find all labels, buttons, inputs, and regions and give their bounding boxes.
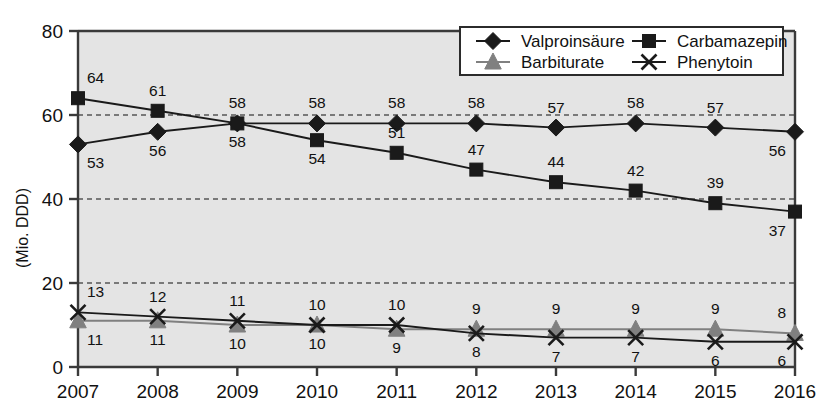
x-tick-label-2007: 2007 [57,381,99,402]
data-point-marker [231,117,244,130]
data-point-label: 7 [552,348,561,365]
data-point-marker [151,104,164,117]
data-point-label: 8 [472,343,481,360]
line-chart-svg: 020406080 200720082009201020112012201320… [0,0,829,410]
data-point-label: 39 [707,174,724,191]
x-tick-label-2015: 2015 [694,381,736,402]
x-tick-label-2008: 2008 [137,381,179,402]
x-tick-label-2012: 2012 [455,381,497,402]
data-point-marker [550,176,563,189]
legend-label: Barbiturate [521,53,604,72]
data-point-label: 37 [769,222,786,239]
data-point-marker [709,197,722,210]
data-point-label: 58 [308,94,325,111]
y-axis-title: (Mio. DDD) [14,188,31,268]
chart-figure: 020406080 200720082009201020112012201320… [0,0,829,410]
data-point-marker [72,92,85,105]
data-point-label: 9 [631,300,640,317]
y-tick-label-20: 20 [42,273,63,294]
data-point-label: 11 [229,292,245,309]
data-point-label: 58 [229,94,246,111]
data-point-label: 47 [468,141,485,158]
data-point-label: 42 [627,162,644,179]
chart-legend: ValproinsäureCarbamazepinBarbituratePhen… [460,27,788,75]
data-point-label: 10 [229,335,247,352]
data-point-label: 58 [388,94,405,111]
x-tick-label-2009: 2009 [216,381,258,402]
data-point-label: 6 [777,352,786,369]
data-point-label: 9 [711,300,720,317]
legend-marker-square-icon [643,35,656,48]
y-tick-label-0: 0 [52,357,63,378]
x-tick-label-2014: 2014 [615,381,658,402]
data-point-label: 54 [308,150,326,167]
data-point-label: 11 [150,331,166,348]
data-point-label: 10 [308,335,326,352]
data-point-label: 53 [87,154,104,171]
data-point-label: 57 [707,99,724,116]
x-tick-label-2016: 2016 [774,381,816,402]
data-point-label: 58 [229,133,246,150]
data-point-label: 56 [149,142,166,159]
data-point-label: 11 [87,331,103,348]
data-point-label: 58 [468,94,485,111]
x-tick-label-2010: 2010 [296,381,338,402]
data-point-label: 44 [547,153,565,170]
data-point-marker [629,184,642,197]
legend-label: Carbamazepin [677,32,788,51]
data-point-marker [311,134,324,147]
data-point-label: 8 [777,304,786,321]
data-point-label: 9 [472,300,481,317]
data-point-label: 9 [552,300,561,317]
data-point-label: 61 [149,82,166,99]
data-point-marker [390,146,403,159]
data-point-label: 51 [388,124,405,141]
y-tick-label-80: 80 [42,21,63,42]
data-point-label: 13 [87,283,104,300]
data-point-label: 58 [627,94,644,111]
data-point-label: 9 [392,339,401,356]
x-tick-label-2013: 2013 [535,381,577,402]
data-point-label: 57 [547,99,564,116]
data-point-label: 12 [149,288,166,305]
data-point-label: 10 [308,296,326,313]
data-point-label: 56 [769,142,786,159]
data-point-marker [470,163,483,176]
y-tick-label-60: 60 [42,105,63,126]
data-point-label: 6 [711,352,720,369]
data-point-label: 10 [388,296,406,313]
legend-label: Phenytoin [677,53,753,72]
x-tick-label-2011: 2011 [376,381,417,402]
data-point-label: 7 [631,348,640,365]
data-point-label: 64 [87,69,105,86]
legend-label: Valproinsäure [521,32,625,51]
y-tick-label-40: 40 [42,189,63,210]
data-point-marker [789,205,802,218]
